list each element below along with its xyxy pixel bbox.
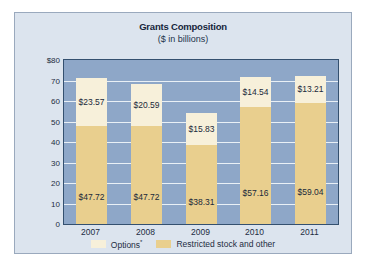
- legend-label: Restricted stock and other: [176, 239, 275, 249]
- bar-value-label-options: $13.21: [295, 84, 326, 94]
- legend-label: Options*: [111, 239, 143, 250]
- bar-value-label-options: $15.83: [186, 124, 217, 134]
- chart-subtitle: ($ in billions): [15, 33, 351, 45]
- y-axis-tick-label: 0: [16, 220, 60, 229]
- y-axis-tick-label: 10: [16, 199, 60, 208]
- bar-segment-restricted: [240, 107, 271, 224]
- y-axis-tick-label: $80: [16, 56, 60, 65]
- bar-value-label-options: $23.57: [76, 97, 107, 107]
- legend-item[interactable]: Restricted stock and other: [156, 239, 275, 249]
- bar-group: $47.72$20.59: [131, 60, 162, 224]
- y-axis-tick-label: 40: [16, 138, 60, 147]
- plot-inner: 010203040506070$80$47.72$23.57$47.72$20.…: [64, 60, 338, 224]
- bar-segment-restricted: [131, 126, 162, 224]
- x-axis-tick-label: 2007: [75, 227, 106, 237]
- bar-segment-restricted: [295, 103, 326, 224]
- bar-group: $57.16$14.54: [240, 60, 271, 224]
- y-axis-tick-label: 50: [16, 117, 60, 126]
- chart-legend: Options*Restricted stock and other: [15, 239, 351, 250]
- bar-group: $38.31$15.83: [186, 60, 217, 224]
- bar-value-label-restricted: $57.16: [240, 188, 271, 198]
- chart-title-block: Grants Composition ($ in billions): [15, 21, 351, 45]
- plot-area: 010203040506070$80$47.72$23.57$47.72$20.…: [63, 59, 339, 225]
- bar-segment-restricted: [186, 145, 217, 224]
- x-axis-tick-label: 2009: [185, 227, 216, 237]
- bar-group: $47.72$23.57: [76, 60, 107, 224]
- bar-value-label-restricted: $38.31: [186, 197, 217, 207]
- bar-group: $59.04$13.21: [295, 60, 326, 224]
- x-axis-tick-label: 2010: [239, 227, 270, 237]
- chart-card: Grants Composition ($ in billions) 01020…: [14, 12, 352, 254]
- y-axis-tick-label: 60: [16, 97, 60, 106]
- page-title: Grants Composition: [15, 21, 351, 33]
- y-axis-tick-label: 70: [16, 76, 60, 85]
- x-axis-tick-label: 2008: [130, 227, 161, 237]
- bar-value-label-restricted: $59.04: [295, 187, 326, 197]
- legend-footnote-marker: *: [140, 239, 142, 245]
- bar-value-label-restricted: $47.72: [131, 192, 162, 202]
- legend-swatch: [91, 240, 106, 248]
- bar-segment-restricted: [76, 126, 107, 224]
- y-axis-tick-label: 30: [16, 158, 60, 167]
- legend-item[interactable]: Options*: [91, 239, 143, 250]
- y-axis-tick-label: 20: [16, 179, 60, 188]
- legend-swatch: [156, 240, 171, 248]
- bar-value-label-options: $20.59: [131, 100, 162, 110]
- x-axis-tick-label: 2011: [294, 227, 325, 237]
- bar-value-label-restricted: $47.72: [76, 192, 107, 202]
- bar-value-label-options: $14.54: [240, 87, 271, 97]
